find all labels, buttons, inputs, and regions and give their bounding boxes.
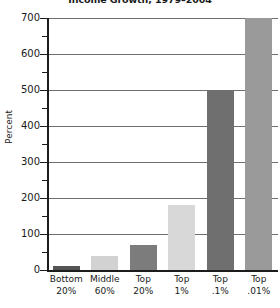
x-label-line: Top: [201, 274, 240, 286]
x-label-line: 60%: [86, 286, 125, 298]
y-tick-major-700: [40, 18, 47, 19]
x-axis-label-1: Middle60%: [86, 274, 125, 297]
bar-series: [47, 18, 278, 270]
x-axis-line: [47, 270, 278, 272]
bar-4: [207, 90, 234, 270]
x-label-line: 20%: [124, 286, 163, 298]
x-axis-label-4: Top.1%: [201, 274, 240, 297]
y-tick-major-600: [40, 54, 47, 55]
y-tick-major-100: [40, 234, 47, 235]
y-tick-label-300: 300: [6, 157, 40, 167]
x-axis-label-2: Top20%: [124, 274, 163, 297]
y-tick-label-200: 200: [6, 193, 40, 203]
x-label-line: .1%: [201, 286, 240, 298]
x-label-line: Middle: [86, 274, 125, 286]
bar-5: [245, 18, 272, 270]
chart-title: Income Growth, 1979–2004: [0, 0, 280, 6]
bar-1: [91, 256, 118, 270]
x-label-line: Top: [163, 274, 202, 286]
income-growth-bar-chart: Income Growth, 1979–2004 Percent 0100200…: [0, 0, 280, 308]
x-label-line: Top: [240, 274, 279, 286]
x-axis-category-labels: Bottom20%Middle60%Top20%Top1%Top.1%Top.0…: [47, 274, 278, 308]
x-label-line: 20%: [47, 286, 86, 298]
y-tick-major-0: [40, 270, 47, 271]
y-tick-label-0: 0: [6, 265, 40, 275]
y-tick-major-400: [40, 126, 47, 127]
x-label-line: 1%: [163, 286, 202, 298]
y-tick-major-300: [40, 162, 47, 163]
y-tick-major-200: [40, 198, 47, 199]
bar-3: [168, 205, 195, 270]
x-axis-label-3: Top1%: [163, 274, 202, 297]
y-axis-tick-labels: 0100200300400500600700: [0, 18, 40, 270]
x-label-line: Top: [124, 274, 163, 286]
y-tick-label-100: 100: [6, 229, 40, 239]
y-tick-major-500: [40, 90, 47, 91]
x-label-line: Bottom: [47, 274, 86, 286]
bar-2: [130, 245, 157, 270]
x-axis-label-0: Bottom20%: [47, 274, 86, 297]
y-tick-label-700: 700: [6, 13, 40, 23]
x-axis-label-5: Top.01%: [240, 274, 279, 297]
y-tick-label-600: 600: [6, 49, 40, 59]
y-tick-label-500: 500: [6, 85, 40, 95]
x-label-line: .01%: [240, 286, 279, 298]
y-tick-label-400: 400: [6, 121, 40, 131]
